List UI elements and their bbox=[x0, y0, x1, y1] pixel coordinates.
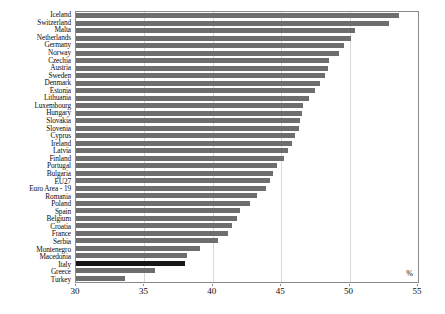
bar bbox=[76, 216, 237, 221]
bar-row bbox=[76, 185, 418, 193]
bar bbox=[76, 253, 187, 258]
bar-row bbox=[76, 170, 418, 178]
bar bbox=[76, 28, 355, 33]
bar-row bbox=[76, 50, 418, 58]
bar-row bbox=[76, 215, 418, 223]
bar-row bbox=[76, 267, 418, 275]
x-axis: 303540455055 bbox=[75, 284, 419, 304]
plot-area: % bbox=[75, 11, 419, 283]
bar-row bbox=[76, 207, 418, 215]
bar-row bbox=[76, 35, 418, 43]
bar bbox=[76, 58, 329, 63]
bar-row bbox=[76, 147, 418, 155]
bar bbox=[76, 73, 325, 78]
bar bbox=[76, 51, 339, 56]
bar bbox=[76, 103, 303, 108]
bar bbox=[76, 36, 351, 41]
bar bbox=[76, 208, 240, 213]
bar bbox=[76, 201, 250, 206]
percent-unit-label: % bbox=[406, 269, 413, 278]
bar-row bbox=[76, 260, 418, 268]
bar bbox=[76, 13, 399, 18]
bar bbox=[76, 133, 295, 138]
bar-row bbox=[76, 192, 418, 200]
bar-row bbox=[76, 12, 418, 20]
bar bbox=[76, 193, 257, 198]
bar bbox=[76, 178, 270, 183]
bar-row bbox=[76, 102, 418, 110]
bar bbox=[76, 148, 288, 153]
bars-layer bbox=[76, 12, 418, 282]
bar-row bbox=[76, 65, 418, 73]
x-tick-label: 30 bbox=[71, 286, 80, 296]
horizontal-bar-chart: IcelandSwitzerlandMaltaNetherlandsGerman… bbox=[0, 0, 445, 314]
bar-row bbox=[76, 20, 418, 28]
bar-row bbox=[76, 177, 418, 185]
bar bbox=[76, 118, 300, 123]
bar bbox=[76, 66, 328, 71]
x-tick-label: 40 bbox=[207, 286, 216, 296]
bar bbox=[76, 276, 125, 281]
bar bbox=[76, 81, 320, 86]
bar bbox=[76, 21, 389, 26]
bar bbox=[76, 268, 155, 273]
bar-row bbox=[76, 230, 418, 238]
bar bbox=[76, 231, 228, 236]
bar-row bbox=[76, 237, 418, 245]
bar-row bbox=[76, 162, 418, 170]
bar-row bbox=[76, 42, 418, 50]
bar bbox=[76, 111, 302, 116]
bar bbox=[76, 126, 299, 131]
bar-row bbox=[76, 27, 418, 35]
bar bbox=[76, 186, 266, 191]
bar bbox=[76, 246, 200, 251]
bar bbox=[76, 163, 277, 168]
bar bbox=[76, 156, 284, 161]
bar bbox=[76, 141, 292, 146]
bar-row bbox=[76, 87, 418, 95]
bar bbox=[76, 88, 315, 93]
bar bbox=[76, 261, 185, 266]
bar-row bbox=[76, 80, 418, 88]
bar bbox=[76, 43, 344, 48]
bar-row bbox=[76, 132, 418, 140]
bar-row bbox=[76, 110, 418, 118]
bar-row bbox=[76, 155, 418, 163]
category-label-column: IcelandSwitzerlandMaltaNetherlandsGerman… bbox=[0, 11, 74, 283]
bar bbox=[76, 223, 232, 228]
bar bbox=[76, 171, 273, 176]
bar-row bbox=[76, 245, 418, 253]
bar-row bbox=[76, 117, 418, 125]
bar-row bbox=[76, 275, 418, 283]
x-tick-label: 35 bbox=[139, 286, 148, 296]
x-tick-label: 55 bbox=[413, 286, 422, 296]
category-label: Turkey bbox=[0, 276, 74, 284]
bar bbox=[76, 96, 309, 101]
bar-row bbox=[76, 57, 418, 65]
x-tick-label: 50 bbox=[344, 286, 353, 296]
bar-row bbox=[76, 95, 418, 103]
bar-row bbox=[76, 125, 418, 133]
bar-row bbox=[76, 72, 418, 80]
bar-row bbox=[76, 222, 418, 230]
bar bbox=[76, 238, 218, 243]
bar-row bbox=[76, 200, 418, 208]
bar-row bbox=[76, 140, 418, 148]
x-tick-label: 45 bbox=[276, 286, 285, 296]
bar-row bbox=[76, 252, 418, 260]
